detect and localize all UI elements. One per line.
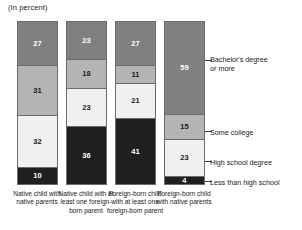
legend-label: Less than high school	[210, 178, 280, 187]
legend-label: High school degree	[210, 158, 272, 167]
x-axis-label: Foreign-born child with native parents	[155, 190, 213, 207]
bar-segment[interactable]: 32	[17, 115, 58, 167]
bar-segment-value: 10	[33, 172, 42, 180]
bar-segment[interactable]: 36	[66, 126, 107, 185]
bar-segment[interactable]: 23	[164, 139, 205, 176]
legend-label: Some college	[210, 128, 254, 137]
bar-segment-value: 41	[131, 148, 140, 156]
bar-segment[interactable]: 4	[164, 176, 205, 186]
bar-column[interactable]: 27112141	[115, 21, 156, 185]
chart-title: (In percent)	[8, 3, 48, 12]
bar-column[interactable]: 5915234	[164, 21, 205, 185]
bar-segment-value: 27	[131, 40, 140, 48]
bar-segment-value: 23	[180, 154, 189, 162]
bar-segment-value: 15	[180, 123, 189, 131]
bar-segment-value: 59	[180, 64, 189, 72]
bar-segment[interactable]: 27	[115, 21, 156, 65]
bar-segment-value: 27	[33, 40, 42, 48]
bar-segment-value: 23	[82, 37, 91, 45]
bar-segment[interactable]: 23	[66, 21, 107, 59]
bar-segment[interactable]: 11	[115, 65, 156, 83]
bar-segment[interactable]: 59	[164, 21, 205, 114]
bar-segment-value: 11	[131, 71, 139, 79]
bar-segment[interactable]: 10	[17, 167, 58, 185]
bar-segment[interactable]: 41	[115, 118, 156, 185]
bar-segment-value: 32	[33, 138, 42, 146]
bar-segment-value: 21	[131, 97, 140, 105]
bar-segment[interactable]: 15	[164, 114, 205, 138]
bar-segment-value: 36	[82, 152, 91, 160]
bar-column[interactable]: 27313210	[17, 21, 58, 185]
bar-segment[interactable]: 21	[115, 83, 156, 117]
bar-segment[interactable]: 31	[17, 65, 58, 115]
bar-segment-value: 31	[33, 87, 42, 95]
bar-segment-value: 18	[82, 70, 91, 78]
bar-segment-value: 23	[82, 104, 91, 112]
bar-segment[interactable]: 27	[17, 21, 58, 65]
chart-page: (In percent) 273132102318233627112141591…	[0, 0, 302, 230]
bar-segment[interactable]: 23	[66, 88, 107, 126]
plot-area: 2731321023182336271121415915234	[17, 21, 205, 185]
legend-label: Bachelor's degreeor more	[210, 55, 268, 73]
bar-segment[interactable]: 18	[66, 59, 107, 89]
bar-segment-value: 4	[182, 177, 186, 185]
bar-column[interactable]: 23182336	[66, 21, 107, 185]
